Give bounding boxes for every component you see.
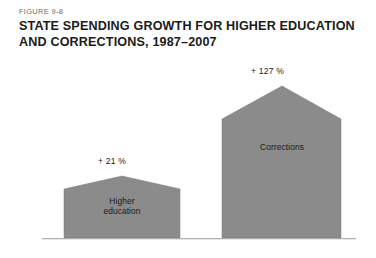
figure-container: FIGURE 9-8 STATE SPENDING GROWTH FOR HIG…	[0, 0, 376, 258]
value-label-higher-education: + 21 %	[98, 156, 126, 166]
bar-corrections	[222, 86, 341, 238]
chart-svg	[0, 0, 376, 258]
value-label-corrections: + 127 %	[251, 66, 284, 76]
bar-label-corrections: Corrections	[231, 142, 333, 152]
chart-plot-area: + 21 % + 127 % Higher education Correcti…	[0, 0, 376, 258]
bar-label-higher-education: Higher education	[72, 196, 172, 217]
